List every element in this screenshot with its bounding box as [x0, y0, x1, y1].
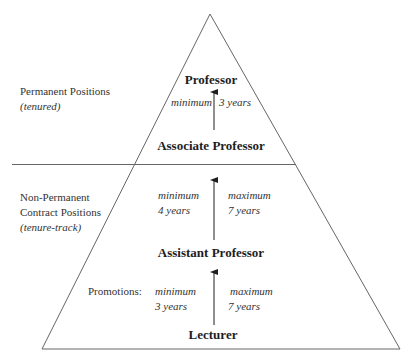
transition-2-max-value: 7 years: [228, 205, 260, 216]
rank-assistant-professor: Assistant Professor: [158, 246, 264, 259]
rank-associate-professor: Associate Professor: [157, 139, 265, 152]
tenure-track-label: (tenure-track): [20, 222, 81, 233]
permanent-positions-label: Permanent Positions: [20, 86, 110, 97]
transition-2-min-label: minimum: [158, 190, 199, 201]
rank-professor: Professor: [185, 73, 237, 86]
rank-lecturer: Lecturer: [189, 328, 238, 341]
pyramid-triangle: [42, 14, 400, 349]
transition-1-min-label: minimum: [171, 97, 212, 108]
transition-3-max-value: 7 years: [228, 301, 260, 312]
tenured-label: (tenured): [20, 101, 61, 112]
contract-positions-label: Contract Positions: [20, 207, 101, 218]
promotions-label: Promotions:: [88, 286, 142, 297]
transition-2-min-value: 4 years: [158, 205, 190, 216]
transition-2-max-label: maximum: [228, 190, 271, 201]
pyramid-graphic: [0, 0, 410, 361]
transition-1-min-value: 3 years: [219, 97, 251, 108]
transition-3-min-value: 3 years: [155, 301, 187, 312]
transition-3-max-label: maximum: [230, 286, 273, 297]
non-permanent-label: Non-Permanent: [20, 192, 90, 203]
transition-3-min-label: minimum: [155, 286, 196, 297]
